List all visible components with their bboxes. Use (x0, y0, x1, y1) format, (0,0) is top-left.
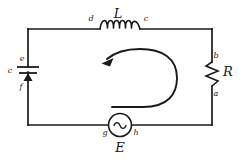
node-label-h: h (133, 128, 138, 137)
inductor-label: L (113, 6, 123, 21)
node-label-g: g (102, 128, 107, 137)
source-label: E (114, 140, 125, 155)
node-label-c-capacitor: c (8, 66, 13, 75)
capacitor-plates (17, 67, 39, 81)
circuit-diagram-figure: L R E d c b a e c f g h (0, 0, 240, 159)
node-label-e: e (20, 54, 25, 63)
node-label-d: d (88, 14, 93, 23)
capacitor-current-arrow-icon (24, 73, 33, 81)
counterclockwise-current-arrow (102, 49, 178, 107)
node-label-b: b (213, 51, 218, 60)
node-label-a: a (214, 89, 219, 98)
resistor-zigzag (206, 62, 218, 86)
node-label-f: f (19, 82, 25, 91)
node-label-c-inductor: c (144, 14, 149, 23)
inductor-coil (100, 21, 140, 30)
ac-voltage-source (109, 114, 132, 137)
resistor-label: R (222, 64, 233, 79)
circuit-schematic-canvas: L R E d c b a e c f g h (0, 0, 240, 159)
